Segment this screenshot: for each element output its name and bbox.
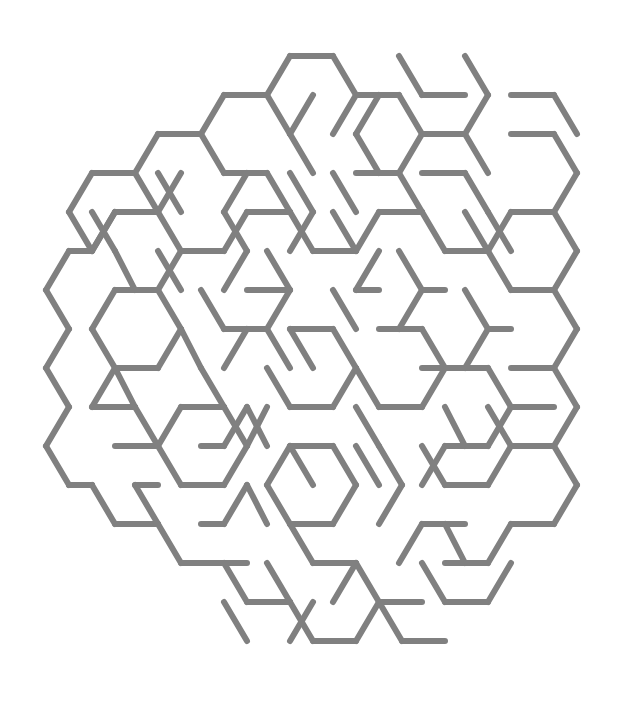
maze-canvas (0, 0, 618, 713)
maze-drawing (0, 0, 618, 713)
